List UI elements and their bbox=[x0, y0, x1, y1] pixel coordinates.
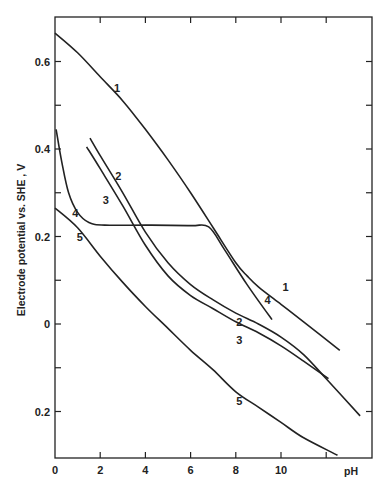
plot-frame bbox=[55, 17, 372, 458]
curve-label-2: 2 bbox=[115, 170, 121, 182]
curves bbox=[55, 33, 360, 455]
x-axis-title: pH bbox=[344, 465, 358, 477]
y-axis-title: Electrode potential vs. SHE , V bbox=[15, 164, 27, 316]
y-tick-label: 0.2 bbox=[35, 406, 50, 418]
x-tick-label: 2 bbox=[97, 464, 103, 476]
curve-3 bbox=[87, 147, 329, 379]
plot-border bbox=[55, 17, 372, 458]
curve-label-4-right: 4 bbox=[264, 294, 271, 306]
curve-label-5: 5 bbox=[77, 231, 83, 243]
curve-label-1-right: 1 bbox=[282, 281, 288, 293]
y-tick-label: 0 bbox=[44, 318, 50, 330]
curve-labels: 1234514235 bbox=[72, 82, 288, 407]
x-tick-label: 4 bbox=[142, 464, 149, 476]
x-tick-label: 8 bbox=[233, 464, 239, 476]
y-tick-label: 0.2 bbox=[35, 231, 50, 243]
curve-label-5-right: 5 bbox=[236, 395, 242, 407]
y-tick-label: 0.4 bbox=[35, 143, 51, 155]
chart: 0246810 0.60.40.200.2 1234514235 pH Elec… bbox=[0, 0, 389, 490]
curve-label-4: 4 bbox=[72, 207, 79, 219]
curve-4 bbox=[56, 129, 272, 319]
curve-label-3-right: 3 bbox=[236, 334, 242, 346]
curve-5 bbox=[55, 208, 338, 455]
curve-label-3: 3 bbox=[103, 194, 109, 206]
curve-2 bbox=[90, 138, 360, 416]
x-tick-label: 0 bbox=[52, 464, 58, 476]
y-tick-label: 0.6 bbox=[35, 56, 50, 68]
x-tick-label: 10 bbox=[275, 464, 287, 476]
curve-label-1: 1 bbox=[114, 82, 120, 94]
curve-label-2-right: 2 bbox=[236, 316, 242, 328]
x-tick-label: 6 bbox=[188, 464, 194, 476]
curve-1 bbox=[55, 33, 340, 350]
